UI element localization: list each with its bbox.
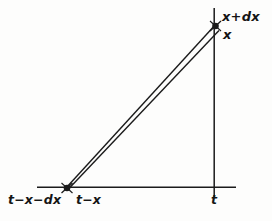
figure-container: x+dx x t−x−dx t−x t xyxy=(0,0,272,221)
label-axis-foot: t xyxy=(211,194,217,207)
label-apex-lower: x xyxy=(223,28,232,41)
wedge-ray-upper xyxy=(66,24,217,189)
label-apex-upper: x+dx xyxy=(222,10,260,23)
label-base-right: t−x xyxy=(76,194,101,207)
apex-vertex-marker xyxy=(210,21,221,31)
wedge-ray-lower xyxy=(69,31,220,190)
label-base-left: t−x−dx xyxy=(8,194,61,207)
base-vertex-marker xyxy=(62,183,73,193)
